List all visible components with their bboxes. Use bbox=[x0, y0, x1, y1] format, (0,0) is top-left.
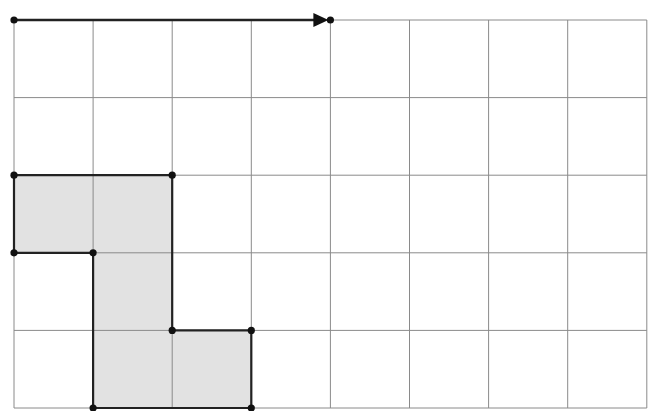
vertex-dot bbox=[327, 16, 334, 23]
vertex-dot bbox=[169, 172, 176, 179]
vertex-dot bbox=[10, 172, 17, 179]
vertex-dot bbox=[10, 249, 17, 256]
vertex-dot bbox=[248, 327, 255, 334]
vertex-dot bbox=[10, 16, 17, 23]
vertex-dot bbox=[169, 327, 176, 334]
vertex-dot bbox=[90, 249, 97, 256]
shape-fill bbox=[14, 175, 251, 408]
translation-vector-arrow bbox=[14, 13, 328, 27]
shaded-shape bbox=[14, 175, 251, 408]
translation-diagram bbox=[0, 0, 653, 411]
arrowhead-icon bbox=[313, 13, 328, 27]
